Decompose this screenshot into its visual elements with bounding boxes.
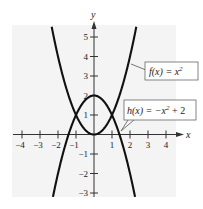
y-tick-label: 1 [84,110,89,120]
x-tick-label: −1 [69,140,79,150]
y-tick-label: −2 [78,169,88,179]
function-graph: −4−3−2−11234−3−2−112345 f(x) = x2h(x) = … [0,0,203,209]
x-tick-label: 1 [110,140,115,150]
y-tick-label: −3 [78,188,88,198]
x-axis-label: x [185,129,191,140]
y-tick-label: 3 [84,71,89,81]
x-tick-label: 3 [146,140,151,150]
x-tick-label: −4 [15,140,25,150]
y-tick-label: 4 [84,52,89,62]
y-tick-label: −1 [78,149,88,159]
y-tick-label: 5 [84,32,89,42]
h-label: h(x) = −x2 + 2 [127,104,185,117]
x-axis-arrow-icon [176,132,184,137]
x-tick-label: −2 [51,140,61,150]
x-tick-label: −3 [33,140,43,150]
x-tick-label: 4 [164,140,169,150]
x-tick-label: 2 [128,140,133,150]
f-label: f(x) = x2 [149,65,183,78]
y-axis-label: y [90,9,96,20]
